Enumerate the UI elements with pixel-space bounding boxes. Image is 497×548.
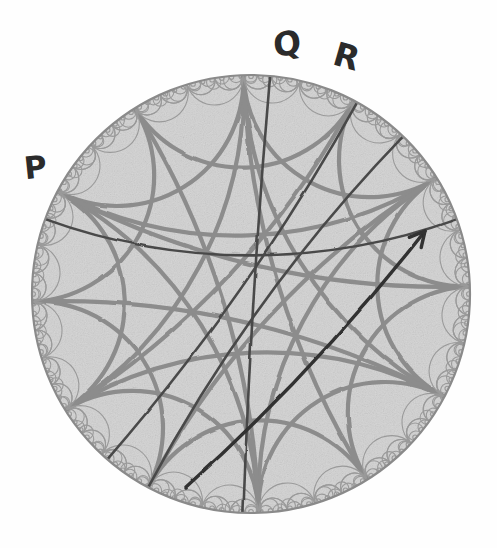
hyperbolic-figure: P Q R <box>0 0 497 548</box>
hyperbolic-disk-canvas <box>0 0 497 548</box>
label-p: P <box>22 151 48 184</box>
label-q: Q <box>271 25 302 63</box>
